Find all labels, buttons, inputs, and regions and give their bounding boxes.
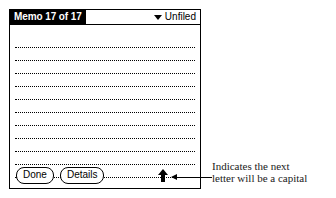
annotation-line-1: Indicates the next	[212, 160, 336, 172]
done-button[interactable]: Done	[16, 167, 54, 184]
memo-ruled-line	[15, 61, 195, 74]
annotation-caption: Indicates the next letter will be a capi…	[212, 160, 336, 184]
memo-ruled-line	[15, 100, 195, 113]
memo-ruled-line	[15, 48, 195, 61]
memo-ruled-line	[15, 87, 195, 100]
annotation-line-2: letter will be a capital	[212, 172, 336, 184]
arrow-up-shaft	[161, 174, 165, 182]
memo-text-area[interactable]	[10, 25, 200, 162]
chevron-down-icon	[154, 15, 162, 20]
callout-leader-line	[177, 177, 212, 178]
memo-window: Memo 17 of 17 Unfiled Done Details	[9, 9, 201, 189]
memo-ruled-line	[15, 139, 195, 152]
memo-ruled-line	[15, 113, 195, 126]
category-selector[interactable]: Unfiled	[86, 10, 200, 24]
memo-ruled-line	[15, 35, 195, 48]
details-button[interactable]: Details	[60, 167, 105, 184]
memo-ruled-line	[15, 74, 195, 87]
page-title: Memo 17 of 17	[10, 10, 86, 24]
memo-ruled-line	[15, 126, 195, 139]
arrow-up-icon	[158, 169, 168, 182]
memo-title-bar: Memo 17 of 17 Unfiled	[10, 10, 200, 25]
category-label: Unfiled	[165, 10, 196, 24]
